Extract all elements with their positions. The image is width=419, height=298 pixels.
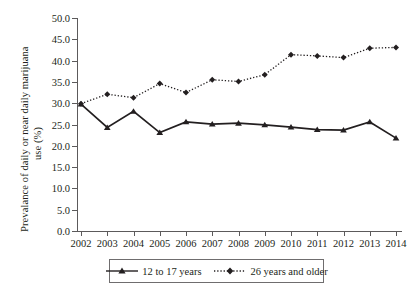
x-axis-tick xyxy=(160,232,161,236)
x-axis-tick-label: 2005 xyxy=(149,238,170,249)
data-point-marker xyxy=(367,45,373,51)
data-point-marker xyxy=(104,91,110,97)
data-point-marker xyxy=(393,44,399,50)
x-axis-tick-label: 2007 xyxy=(202,238,223,249)
x-axis-tick xyxy=(291,232,292,236)
y-axis-tick-label: 35.0 xyxy=(52,76,70,87)
chart-figure: Prevalance of daily or near daily mariju… xyxy=(0,0,419,298)
y-axis-tick-label: 15.0 xyxy=(52,162,70,173)
data-point-marker xyxy=(131,95,137,101)
data-point-marker xyxy=(183,90,189,96)
x-axis-tick xyxy=(370,232,371,236)
data-point-marker xyxy=(209,77,215,83)
x-axis-tick xyxy=(107,232,108,236)
dotted-line-diamond-marker-icon xyxy=(213,266,247,276)
data-point-marker xyxy=(130,108,137,114)
y-axis-tick-label: 10.0 xyxy=(52,183,70,194)
chart-legend: 12 to 17 years 26 years and older xyxy=(109,259,324,283)
data-point-marker xyxy=(366,119,373,125)
x-axis-tick-label: 2013 xyxy=(359,238,380,249)
x-axis-tick-label: 2012 xyxy=(333,238,354,249)
y-axis-tick-label: 50.0 xyxy=(52,13,70,24)
y-axis-tick-label: 5.0 xyxy=(57,204,70,215)
y-axis-tick-label: 30.0 xyxy=(52,98,70,109)
x-axis-tick xyxy=(81,232,82,236)
y-axis-title-line-2: use (%) xyxy=(32,127,43,160)
data-point-marker xyxy=(236,78,242,84)
data-point-marker xyxy=(314,53,320,59)
x-axis-tick-label: 2004 xyxy=(123,238,144,249)
legend-label-adults: 26 years and older xyxy=(250,266,327,277)
x-axis-tick-label: 2003 xyxy=(97,238,118,249)
series-plot xyxy=(77,18,402,232)
y-axis-tick-label: 0.0 xyxy=(57,226,70,237)
plot-area: 0.05.010.015.020.025.030.035.040.045.050… xyxy=(77,18,402,232)
x-axis-tick-label: 2010 xyxy=(281,238,302,249)
data-point-marker xyxy=(262,72,268,78)
y-axis-tick-label: 45.0 xyxy=(52,34,70,45)
x-axis-tick xyxy=(396,232,397,236)
x-axis-tick xyxy=(317,232,318,236)
series-line-adults xyxy=(81,47,396,103)
x-axis-tick xyxy=(212,232,213,236)
x-axis-tick-label: 2002 xyxy=(71,238,92,249)
data-point-marker xyxy=(157,81,163,87)
x-axis-tick xyxy=(186,232,187,236)
legend-label-youth: 12 to 17 years xyxy=(142,266,201,277)
x-axis-tick xyxy=(344,232,345,236)
y-axis-title: Prevalance of daily or near daily mariju… xyxy=(0,0,40,240)
legend-entry-youth: 12 to 17 years xyxy=(105,266,201,277)
legend-entry-adults: 26 years and older xyxy=(213,266,327,277)
x-axis-tick-label: 2014 xyxy=(386,238,407,249)
y-axis-tick-label: 40.0 xyxy=(52,55,70,66)
x-axis-tick-label: 2006 xyxy=(176,238,197,249)
x-axis-tick xyxy=(265,232,266,236)
y-axis-tick-label: 20.0 xyxy=(52,140,70,151)
x-axis-tick xyxy=(239,232,240,236)
data-point-marker xyxy=(341,55,347,61)
x-axis-tick xyxy=(134,232,135,236)
solid-line-triangle-marker-icon xyxy=(105,266,139,276)
y-axis-title-line-1: Prevalance of daily or near daily mariju… xyxy=(19,46,30,232)
x-axis-tick-label: 2011 xyxy=(307,238,328,249)
x-axis-tick-label: 2008 xyxy=(228,238,249,249)
x-axis-tick-label: 2009 xyxy=(254,238,275,249)
y-axis-tick-label: 25.0 xyxy=(52,119,70,130)
